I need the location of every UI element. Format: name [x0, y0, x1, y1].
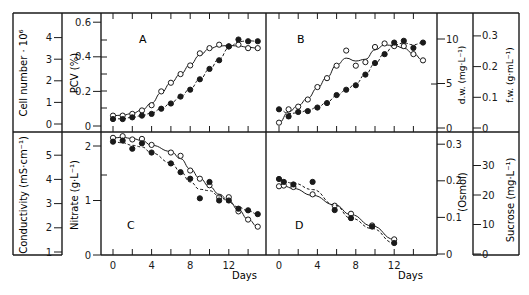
svg-text:0.3: 0.3: [446, 139, 462, 150]
filled-circle-marker: [226, 198, 231, 203]
filled-circle-marker: [188, 87, 193, 92]
svg-text:0.2: 0.2: [482, 61, 498, 72]
svg-text:0.1: 0.1: [482, 92, 498, 103]
filled-circle-marker: [226, 44, 231, 49]
filled-circle-marker: [130, 146, 135, 151]
filled-circle-marker: [178, 94, 183, 99]
filled-circle-marker: [120, 138, 125, 143]
y-axis-nitrate: 012: [85, 141, 101, 261]
open-circle-marker: [401, 44, 406, 49]
open-circle-marker: [130, 137, 135, 142]
svg-text:0: 0: [446, 123, 452, 134]
svg-text:0: 0: [85, 121, 91, 132]
filled-circle-marker: [276, 176, 281, 181]
filled-circle-marker: [363, 72, 368, 77]
y-axis-label-osmol: (Osmol): [457, 172, 468, 212]
svg-text:0: 0: [85, 250, 91, 261]
open-circle-marker: [353, 63, 358, 68]
filled-circle-marker: [281, 179, 286, 184]
filled-circle-marker: [139, 141, 144, 146]
svg-text:4: 4: [46, 174, 52, 185]
svg-text:0: 0: [46, 119, 52, 130]
y-axis-label-cell-number: Cell number · 10⁶: [18, 29, 29, 116]
open-circle-marker: [246, 46, 251, 51]
svg-text:0.1: 0.1: [446, 212, 462, 223]
open-circle-marker: [255, 46, 260, 51]
filled-circle-marker: [110, 116, 115, 121]
panel-label-b: B: [297, 33, 305, 46]
filled-circle-marker: [420, 40, 425, 45]
open-circle-marker: [246, 217, 251, 222]
open-circle-marker: [188, 63, 193, 68]
open-circle-marker: [310, 192, 315, 197]
growth-kinetics-figure: 0123400.20.40.612345012051000.10.20.300.…: [0, 0, 529, 295]
open-circle-marker: [255, 224, 260, 229]
open-circle-marker: [217, 42, 222, 47]
svg-text:10: 10: [446, 34, 459, 45]
figure-frame: [13, 13, 519, 255]
filled-circle-marker: [197, 196, 202, 201]
filled-circle-marker: [305, 108, 310, 113]
open-circle-marker: [197, 176, 202, 181]
svg-text:20: 20: [482, 190, 495, 201]
open-circle-marker: [315, 84, 320, 89]
y-axis-label-dw: d.w. (mg·L⁻¹): [457, 46, 467, 105]
open-circle-marker: [382, 41, 387, 46]
filled-circle-marker: [168, 161, 173, 166]
y-axis-conductivity: 12345: [46, 150, 62, 258]
filled-circle-marker: [130, 115, 135, 120]
y-axis-label-conductivity: Conductivity (mS·cm⁻¹): [18, 136, 29, 254]
filled-circle-marker: [348, 216, 353, 221]
svg-text:5: 5: [446, 78, 452, 89]
filled-circle-marker: [246, 39, 251, 44]
open-circle-marker: [324, 76, 329, 81]
panel-label-c: C: [127, 219, 135, 232]
svg-text:0.3: 0.3: [482, 30, 498, 41]
open-circle-marker: [236, 42, 241, 47]
y-axis-label-pcv: PCV (%): [69, 53, 80, 93]
open-circle-marker: [178, 153, 183, 158]
filled-circle-marker: [286, 114, 291, 119]
svg-text:30: 30: [482, 160, 495, 171]
svg-text:5: 5: [46, 150, 52, 161]
open-circle-marker: [286, 107, 291, 112]
open-circle-marker: [207, 46, 212, 51]
open-circle-marker: [197, 51, 202, 56]
svg-text:1: 1: [85, 195, 91, 206]
filled-circle-marker: [401, 38, 406, 43]
filled-circle-marker: [344, 87, 349, 92]
svg-text:1: 1: [46, 97, 52, 108]
open-circle-marker: [149, 142, 154, 147]
panel-c-series: [110, 134, 260, 230]
filled-circle-marker: [178, 170, 183, 175]
svg-text:2: 2: [85, 141, 91, 152]
svg-text:2: 2: [46, 75, 52, 86]
svg-text:8: 8: [353, 260, 359, 271]
open-circle-marker: [139, 108, 144, 113]
fit-curve-open: [113, 46, 258, 116]
panel-a-series: [110, 37, 260, 122]
open-circle-marker: [344, 48, 349, 53]
open-circle-marker: [420, 58, 425, 63]
filled-circle-marker: [334, 92, 339, 97]
svg-text:3: 3: [46, 54, 52, 65]
y-axis-label-nitrate: Nitrate (g·L⁻¹): [69, 160, 80, 230]
filled-circle-marker: [168, 101, 173, 106]
filled-circle-marker: [411, 45, 416, 50]
x-axis-label-left: Days: [232, 270, 257, 281]
x-axis-label-right: Days: [398, 270, 423, 281]
filled-circle-marker: [291, 182, 296, 187]
filled-circle-marker: [392, 40, 397, 45]
open-circle-marker: [296, 104, 301, 109]
open-circle-marker: [276, 120, 281, 125]
filled-circle-marker: [207, 179, 212, 184]
filled-circle-marker: [197, 77, 202, 82]
svg-text:4: 4: [314, 260, 320, 271]
filled-circle-marker: [207, 66, 212, 71]
filled-circle-marker: [382, 52, 387, 57]
svg-text:4: 4: [148, 260, 154, 271]
data-layer: [110, 37, 425, 246]
open-circle-marker: [411, 52, 416, 57]
open-circle-marker: [178, 72, 183, 77]
open-circle-marker: [168, 80, 173, 85]
